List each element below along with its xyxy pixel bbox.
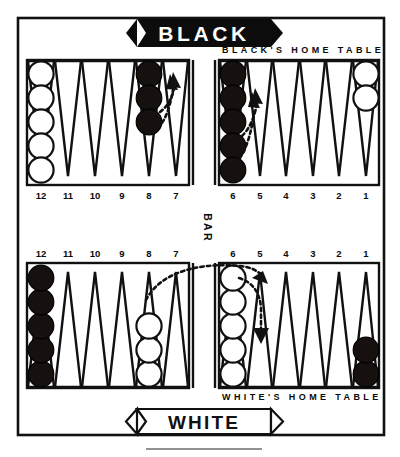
- point-number: 3: [310, 190, 315, 201]
- black-banner-tail: [271, 19, 283, 47]
- point-number: 3: [310, 248, 315, 259]
- checker-black[interactable]: [136, 61, 162, 87]
- checker-black[interactable]: [28, 265, 54, 291]
- point-number: 12: [36, 190, 47, 201]
- point-number: 7: [173, 190, 178, 201]
- point-bottom-10[interactable]: [82, 272, 108, 387]
- point-number: 8: [146, 190, 151, 201]
- point-top-9[interactable]: [109, 61, 135, 176]
- point-bottom-3[interactable]: [300, 272, 325, 387]
- point-bottom-9[interactable]: [109, 272, 135, 387]
- point-number: 11: [63, 248, 74, 259]
- checker-white[interactable]: [28, 109, 53, 134]
- checker-black[interactable]: [28, 337, 54, 363]
- checker-white[interactable]: [28, 157, 53, 182]
- white-banner: WHITE: [126, 409, 283, 434]
- point-number: 2: [336, 248, 341, 259]
- black-home-table-label: BLACK'S HOME TABLE: [222, 45, 384, 55]
- checker-white[interactable]: [136, 337, 161, 362]
- point-top-10[interactable]: [82, 61, 108, 176]
- point-numbers-bottom-home: 6 5 4 3 2 1: [230, 248, 369, 259]
- point-bottom-7[interactable]: [163, 272, 188, 387]
- checker-stack-bottom-8[interactable]: [136, 313, 161, 386]
- checker-black[interactable]: [136, 85, 162, 111]
- bar-label: BAR: [202, 213, 214, 242]
- point-bottom-2[interactable]: [326, 272, 352, 387]
- point-top-11[interactable]: [55, 61, 81, 176]
- point-number: 11: [63, 190, 74, 201]
- point-top-2[interactable]: [326, 61, 352, 176]
- checker-white[interactable]: [28, 133, 53, 158]
- point-top-4[interactable]: [273, 61, 299, 176]
- point-bottom-11[interactable]: [55, 272, 81, 387]
- point-top-3[interactable]: [300, 61, 325, 176]
- point-number: 4: [283, 248, 289, 259]
- checker-black[interactable]: [353, 361, 379, 387]
- point-number: 8: [146, 248, 151, 259]
- checker-white[interactable]: [28, 61, 53, 86]
- point-number: 7: [173, 248, 178, 259]
- point-number: 10: [90, 190, 101, 201]
- checker-white[interactable]: [136, 361, 161, 386]
- point-number: 6: [230, 190, 235, 201]
- point-number: 6: [230, 248, 235, 259]
- checker-stack-top-8[interactable]: [136, 61, 162, 135]
- checker-white[interactable]: [220, 361, 245, 386]
- white-banner-label: WHITE: [168, 412, 240, 433]
- black-banner-head: [126, 19, 137, 47]
- checker-white[interactable]: [220, 337, 245, 362]
- checker-black[interactable]: [28, 361, 54, 387]
- point-number: 9: [119, 190, 124, 201]
- checker-black[interactable]: [220, 157, 246, 183]
- checker-white[interactable]: [220, 313, 245, 338]
- backgammon-board-figure: BLACK BLACK'S HOME TABLE BAR: [0, 0, 400, 457]
- checker-white[interactable]: [353, 85, 378, 110]
- checker-stack-top-12[interactable]: [28, 61, 53, 182]
- black-banner-label: BLACK: [158, 22, 250, 45]
- white-banner-head: [126, 409, 137, 434]
- checker-stack-bottom-12[interactable]: [28, 265, 54, 387]
- checker-black[interactable]: [28, 313, 54, 339]
- move-arrow-white-8-to-5: [146, 265, 268, 300]
- point-number: 1: [363, 248, 369, 259]
- point-numbers-top-outer: 12 11 10 9 8 7: [36, 190, 179, 201]
- point-number: 5: [257, 190, 263, 201]
- checker-white[interactable]: [353, 61, 378, 86]
- point-number: 12: [36, 248, 47, 259]
- checker-stack-top-6[interactable]: [220, 61, 246, 183]
- checker-white[interactable]: [220, 289, 245, 314]
- point-top-5[interactable]: [247, 61, 272, 176]
- checker-white[interactable]: [136, 313, 161, 338]
- checker-white[interactable]: [28, 85, 53, 110]
- checker-black[interactable]: [220, 109, 246, 135]
- checker-black[interactable]: [220, 85, 246, 111]
- checker-black[interactable]: [353, 337, 379, 363]
- checker-black[interactable]: [220, 61, 246, 87]
- point-number: 5: [257, 248, 263, 259]
- checker-black[interactable]: [136, 109, 162, 135]
- point-number: 9: [119, 248, 124, 259]
- white-home-table-label: WHITE'S HOME TABLE: [222, 392, 382, 402]
- point-number: 4: [283, 190, 289, 201]
- checker-black[interactable]: [28, 289, 54, 315]
- point-number: 1: [363, 190, 369, 201]
- point-bottom-4[interactable]: [273, 272, 299, 387]
- point-numbers-top-home: 6 5 4 3 2 1: [230, 190, 369, 201]
- white-banner-tail: [271, 409, 283, 434]
- bar: BAR: [193, 60, 215, 388]
- checker-stack-bottom-6[interactable]: [220, 265, 245, 386]
- point-number: 10: [90, 248, 101, 259]
- black-banner: BLACK: [126, 19, 283, 47]
- point-numbers-bottom-outer: 12 11 10 9 8 7: [36, 248, 179, 259]
- board-canvas: BLACK BLACK'S HOME TABLE BAR: [0, 0, 400, 457]
- point-number: 2: [336, 190, 341, 201]
